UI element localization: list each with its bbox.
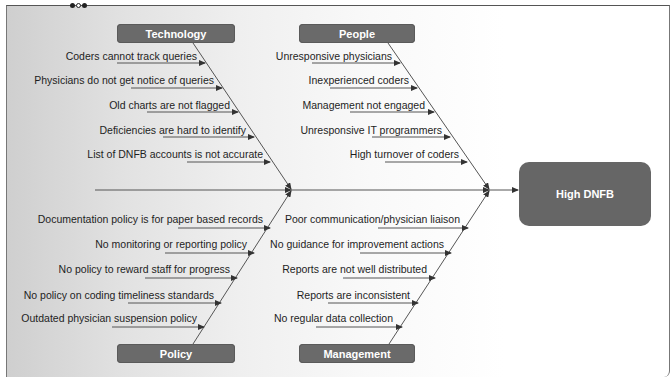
cause-label: List of DNFB accounts is not accurate	[87, 148, 263, 160]
cause-label: No monitoring or reporting policy	[95, 238, 247, 250]
cause-label: Reports are inconsistent	[297, 289, 410, 301]
cause-label: No guidance for improvement actions	[270, 238, 444, 250]
cause-label: Unresponsive IT programmers	[300, 124, 442, 136]
cause-label: Poor communication/physician liaison	[285, 213, 460, 225]
category-policy: Policy	[117, 344, 235, 363]
category-people: People	[299, 24, 415, 43]
effect-box: High DNFB	[519, 162, 651, 226]
cause-label: Deficiencies are hard to identify	[100, 124, 247, 136]
cause-label: Documentation policy is for paper based …	[38, 213, 263, 225]
cause-label: Management not engaged	[302, 99, 425, 111]
cause-label: Reports are not well distributed	[282, 263, 427, 275]
cause-label: No regular data collection	[274, 312, 393, 324]
cause-label: Outdated physician suspension policy	[21, 312, 197, 324]
cause-label: No policy on coding timeliness standards	[24, 289, 214, 301]
cause-label: Physicians do not get notice of queries	[34, 74, 214, 86]
cause-label: High turnover of coders	[350, 148, 459, 160]
bone-people	[388, 43, 489, 189]
category-technology: Technology	[117, 24, 235, 43]
category-management: Management	[299, 344, 415, 363]
cause-label: Old charts are not flagged	[109, 99, 230, 111]
cause-label: Unresponsive physicians	[276, 50, 392, 62]
cause-label: Inexperienced coders	[309, 74, 409, 86]
cause-label: Coders cannot track queries	[66, 50, 197, 62]
bone-technology	[193, 43, 291, 189]
cause-label: No policy to reward staff for progress	[59, 263, 230, 275]
